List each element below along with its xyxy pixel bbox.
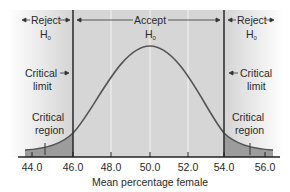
x-tick-label: 50.0 xyxy=(135,161,165,173)
x-tick-label: 46.0 xyxy=(58,161,88,173)
critical-limit-left-label-2: limit xyxy=(33,80,52,92)
critical-limit-right-label: Critical xyxy=(240,67,272,79)
critical-region-right-label: Critical xyxy=(232,111,264,123)
critical-region-left-label: Critical xyxy=(32,111,64,123)
x-tick-label: 56.0 xyxy=(250,161,280,173)
critical-region-right-label-2: region xyxy=(235,124,264,136)
x-axis-label: Mean percentage female xyxy=(0,176,290,188)
x-tick-label: 48.0 xyxy=(96,161,126,173)
h0-right-label: H0 xyxy=(246,28,257,44)
reject-left-label: Reject xyxy=(31,14,61,26)
h0-center-label: H0 xyxy=(145,28,156,44)
h0-left-label: H0 xyxy=(40,28,51,44)
x-tick-label: 52.0 xyxy=(173,161,203,173)
critical-limit-right-label-2: limit xyxy=(247,80,266,92)
reject-right-label: Reject xyxy=(237,14,267,26)
x-tick-label: 44.0 xyxy=(17,161,47,173)
critical-limit-left-label: Critical xyxy=(25,67,57,79)
accept-label: Accept xyxy=(134,14,166,26)
critical-region-left-label-2: region xyxy=(35,124,64,136)
x-tick-label: 54.0 xyxy=(209,161,239,173)
